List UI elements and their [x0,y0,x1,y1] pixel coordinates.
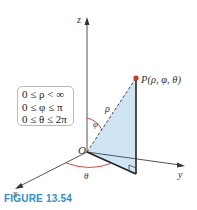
point-p [133,75,138,80]
phi-range: 0 ≤ φ ≤ π [22,101,73,114]
theta-arc [66,163,112,168]
x-axis [20,152,87,186]
z-arrow-icon [85,17,90,25]
origin-label: O [78,144,86,156]
rho-range: 0 ≤ ρ < ∞ [22,88,73,101]
coordinate-ranges-box: 0 ≤ ρ < ∞ 0 ≤ φ ≤ π 0 ≤ θ ≤ 2π [17,86,74,126]
y-arrow-icon [177,163,185,168]
z-axis-label: z [76,14,81,25]
theta-label: θ [84,171,89,181]
rho-label: ρ [104,103,110,114]
phi-label: φ [93,119,98,129]
theta-range: 0 ≤ θ ≤ 2π [22,113,73,126]
y-axis-label: y [177,169,183,180]
point-label: P(ρ, φ, θ) [140,74,181,86]
figure-caption: FIGURE 13.54 [4,193,72,204]
